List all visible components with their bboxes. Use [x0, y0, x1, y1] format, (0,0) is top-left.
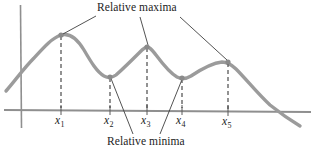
tick-label-x5: x5: [222, 115, 231, 127]
tick-label-x3: x3: [141, 114, 150, 126]
tick-label-x1: x1: [55, 114, 64, 126]
tick-label-x4: x4: [176, 114, 185, 126]
leader-to-x5: [180, 17, 227, 60]
marker-x2: [107, 74, 112, 79]
marker-x4: [179, 75, 184, 80]
figure-canvas: [0, 0, 314, 152]
leader-to-x3: [140, 17, 148, 45]
leader-to-x2: [110, 76, 133, 134]
relative-maxima-label: Relative maxima: [97, 1, 177, 13]
relative-extrema-figure: Relative maxima Relative minima x1 x2 x3…: [0, 0, 314, 152]
marker-x5: [225, 59, 230, 64]
tick-label-x2: x2: [104, 114, 113, 126]
marker-x1: [58, 32, 63, 37]
x-axis: [4, 110, 311, 112]
relative-minima-label: Relative minima: [107, 135, 185, 147]
marker-x3: [144, 44, 149, 49]
leader-to-x1: [63, 16, 96, 34]
